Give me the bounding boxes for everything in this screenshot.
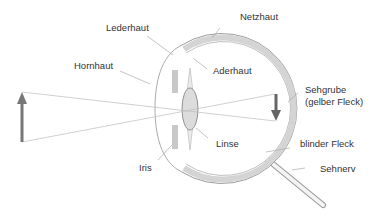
label-hornhaut: Hornhaut <box>74 60 113 71</box>
eye-diagram <box>0 0 381 216</box>
label-gelber-fleck: (gelber Fleck) <box>305 96 363 107</box>
iris-lower <box>172 125 178 149</box>
label-sehgrube: Sehgrube <box>305 84 346 95</box>
iris-upper <box>172 70 178 93</box>
label-iris: Iris <box>139 162 152 173</box>
object-arrow <box>17 92 27 142</box>
label-sehnerv: Sehnerv <box>320 163 355 174</box>
label-netzhaut: Netzhaut <box>240 11 278 22</box>
label-blinder-fleck: blinder Fleck <box>300 138 354 149</box>
label-lederhaut: Lederhaut <box>106 22 149 33</box>
label-linse: Linse <box>216 138 239 149</box>
label-aderhaut: Aderhaut <box>213 65 252 76</box>
